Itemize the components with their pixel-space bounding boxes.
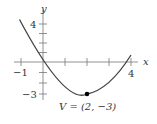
y-axis-label: y bbox=[40, 3, 47, 14]
vertex-point bbox=[85, 92, 90, 97]
x-axis-label: x bbox=[143, 56, 149, 67]
y-tick-label-4: 4 bbox=[30, 19, 36, 30]
y-tick-label-neg3: −3 bbox=[22, 89, 37, 100]
x-tick-label-neg1: −1 bbox=[13, 67, 28, 78]
parabola-plot: y x −1 4 4 −3 V = (2, −3) bbox=[0, 0, 157, 124]
parabola-curve bbox=[20, 20, 132, 96]
vertex-label: V = (2, −3) bbox=[59, 101, 116, 112]
x-tick-label-4: 4 bbox=[128, 68, 134, 79]
